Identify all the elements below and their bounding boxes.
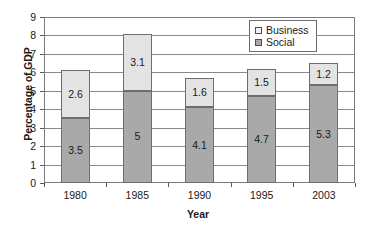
chart-legend: Business Social xyxy=(249,20,317,52)
bar-segment-social[interactable]: 5 xyxy=(123,91,152,183)
legend-swatch-business xyxy=(255,27,262,34)
y-axis-tick-label: 3 xyxy=(0,123,36,133)
bar-group[interactable]: 4.11.6 xyxy=(185,17,214,183)
bar-segment-business[interactable]: 1.2 xyxy=(309,63,338,85)
bar-group[interactable]: 3.52.6 xyxy=(61,17,90,183)
bar-segment-business[interactable]: 1.6 xyxy=(185,78,214,108)
bar-segment-social[interactable]: 4.1 xyxy=(185,107,214,183)
bar-segment-social[interactable]: 3.5 xyxy=(61,118,90,183)
y-axis-tick-mark xyxy=(40,91,44,92)
bar-value-label: 5.3 xyxy=(316,129,331,140)
x-axis-tick-mark xyxy=(44,183,45,187)
legend-swatch-social xyxy=(255,39,262,46)
legend-item-business[interactable]: Business xyxy=(255,24,309,36)
x-axis-tick-label: 1985 xyxy=(107,189,167,201)
x-axis-title: Year xyxy=(40,208,356,220)
bar-value-label: 3.5 xyxy=(68,145,83,156)
legend-item-social[interactable]: Social xyxy=(255,36,309,48)
bar-value-label: 4.7 xyxy=(254,134,269,145)
bar-segment-social[interactable]: 4.7 xyxy=(247,96,276,183)
x-axis-tick-label: 2003 xyxy=(294,189,354,201)
bar-value-label: 1.6 xyxy=(192,87,207,98)
y-axis-tick-mark xyxy=(40,146,44,147)
x-axis-tick-label: 1980 xyxy=(45,189,105,201)
bar-segment-business[interactable]: 3.1 xyxy=(123,34,152,91)
y-axis-tick-mark xyxy=(40,128,44,129)
x-axis-tick-mark xyxy=(168,183,169,187)
y-axis-tick-label: 2 xyxy=(0,141,36,151)
y-axis-tick-label: 6 xyxy=(0,67,36,77)
y-axis-tick-label: 0 xyxy=(0,178,36,188)
bar-value-label: 1.5 xyxy=(254,77,269,88)
x-axis-tick-mark xyxy=(293,183,294,187)
x-axis-tick-label: 1990 xyxy=(170,189,230,201)
bar-value-label: 1.2 xyxy=(316,69,331,80)
y-axis-tick-mark xyxy=(40,17,44,18)
bar-value-label: 3.1 xyxy=(130,57,145,68)
y-axis-tick-mark xyxy=(40,54,44,55)
y-axis-tick-label: 1 xyxy=(0,160,36,170)
y-axis-tick-mark xyxy=(40,109,44,110)
y-axis-tick-label: 5 xyxy=(0,86,36,96)
x-axis-tick-mark xyxy=(231,183,232,187)
bar-group[interactable]: 53.1 xyxy=(123,17,152,183)
bar-value-label: 4.1 xyxy=(192,140,207,151)
y-axis-tick-label: 7 xyxy=(0,49,36,59)
bar-value-label: 2.6 xyxy=(68,89,83,100)
y-axis-tick-mark xyxy=(40,72,44,73)
bar-segment-business[interactable]: 2.6 xyxy=(61,70,90,118)
bar-value-label: 5 xyxy=(135,131,141,142)
x-axis-tick-label: 1995 xyxy=(232,189,292,201)
y-axis-tick-label: 8 xyxy=(0,30,36,40)
y-axis-tick-label: 9 xyxy=(0,12,36,22)
chart-container: Percentage of GDP 0123456789 3.52.653.14… xyxy=(0,0,371,230)
legend-label-business: Business xyxy=(266,25,309,36)
bar-segment-social[interactable]: 5.3 xyxy=(309,85,338,183)
bar-segment-business[interactable]: 1.5 xyxy=(247,69,276,97)
x-axis-tick-mark xyxy=(355,183,356,187)
x-axis-tick-mark xyxy=(106,183,107,187)
y-axis-tick-mark xyxy=(40,35,44,36)
y-axis-tick-mark xyxy=(40,165,44,166)
y-axis-tick-label: 4 xyxy=(0,104,36,114)
legend-label-social: Social xyxy=(266,37,295,48)
